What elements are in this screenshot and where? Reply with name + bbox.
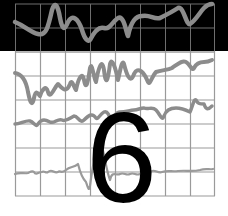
chapter-number: 6 — [86, 108, 157, 208]
chapter-cover: 6 — [0, 0, 228, 216]
waveform-trace-1 — [15, 4, 212, 41]
